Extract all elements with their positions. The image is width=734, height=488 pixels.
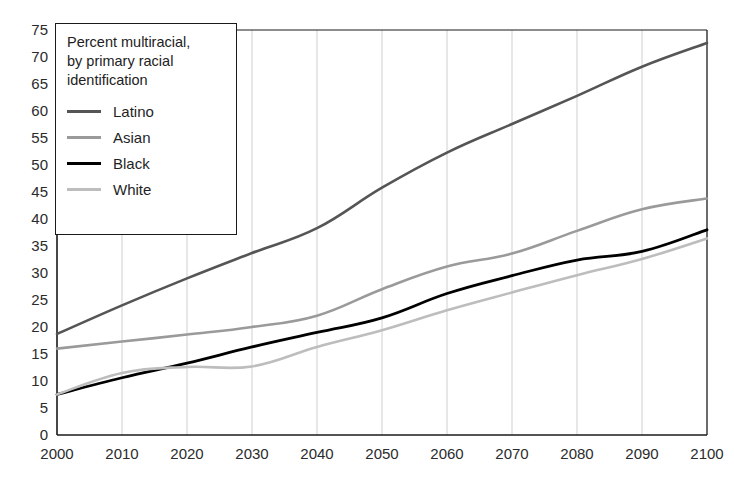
legend-item-black: Black <box>67 151 226 177</box>
svg-text:60: 60 <box>31 102 48 119</box>
svg-text:2050: 2050 <box>365 445 398 462</box>
legend-item-asian: Asian <box>67 125 226 151</box>
multiracial-line-chart: 051015202530354045505560657075 200020102… <box>0 0 734 488</box>
svg-text:35: 35 <box>31 237 48 254</box>
svg-text:55: 55 <box>31 129 48 146</box>
y-axis-tick-labels: 051015202530354045505560657075 <box>31 21 48 443</box>
svg-text:50: 50 <box>31 156 48 173</box>
svg-text:2070: 2070 <box>495 445 528 462</box>
legend-swatch-black <box>67 162 101 165</box>
svg-text:0: 0 <box>40 426 48 443</box>
svg-text:2060: 2060 <box>430 445 463 462</box>
x-axis-tick-labels: 2000201020202030204020502060207020802090… <box>40 445 723 462</box>
legend-item-white: White <box>67 177 226 203</box>
svg-text:25: 25 <box>31 291 48 308</box>
svg-text:45: 45 <box>31 183 48 200</box>
svg-text:40: 40 <box>31 210 48 227</box>
legend-label-black: Black <box>113 156 150 171</box>
svg-text:2080: 2080 <box>560 445 593 462</box>
svg-text:2010: 2010 <box>105 445 138 462</box>
legend-swatch-asian <box>67 136 101 139</box>
legend: Percent multiracial, by primary racial i… <box>55 23 237 235</box>
svg-text:75: 75 <box>31 21 48 38</box>
svg-text:70: 70 <box>31 48 48 65</box>
svg-text:20: 20 <box>31 318 48 335</box>
svg-text:65: 65 <box>31 75 48 92</box>
svg-text:15: 15 <box>31 345 48 362</box>
legend-label-latino: Latino <box>113 104 154 119</box>
legend-item-latino: Latino <box>67 99 226 125</box>
svg-text:10: 10 <box>31 372 48 389</box>
legend-swatch-white <box>67 188 101 191</box>
svg-text:5: 5 <box>40 399 48 416</box>
svg-text:2000: 2000 <box>40 445 73 462</box>
legend-label-asian: Asian <box>113 130 151 145</box>
legend-title: Percent multiracial, by primary racial i… <box>67 33 226 90</box>
legend-swatch-latino <box>67 110 101 113</box>
svg-text:2020: 2020 <box>170 445 203 462</box>
svg-text:2090: 2090 <box>625 445 658 462</box>
svg-text:2040: 2040 <box>300 445 333 462</box>
legend-label-white: White <box>113 182 151 197</box>
svg-text:30: 30 <box>31 264 48 281</box>
svg-text:2100: 2100 <box>690 445 723 462</box>
svg-text:2030: 2030 <box>235 445 268 462</box>
